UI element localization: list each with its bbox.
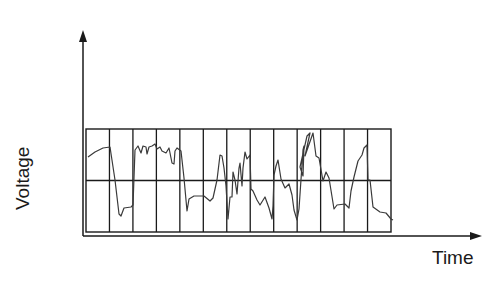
y-axis-label: Voltage bbox=[12, 147, 34, 210]
voltage-time-diagram bbox=[0, 0, 504, 285]
x-axis-label: Time bbox=[432, 247, 474, 269]
y-axis-arrow-icon bbox=[79, 30, 87, 42]
x-axis-arrow-icon bbox=[470, 232, 482, 240]
voltage-trace bbox=[88, 133, 393, 220]
